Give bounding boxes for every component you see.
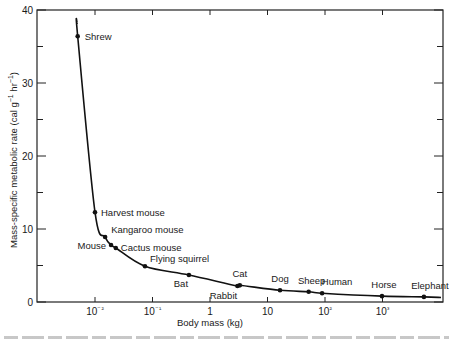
- x-tick-label: 1: [207, 306, 213, 317]
- figure-caption-cropped: [0, 334, 453, 343]
- y-tick-label: 30: [22, 78, 34, 89]
- data-point: [109, 243, 114, 248]
- x-tick-label: 10: [262, 306, 274, 317]
- x-tick-label: 10⁻²: [86, 305, 104, 317]
- y-tick-label: 0: [27, 297, 33, 308]
- point-label: Cactus mouse: [121, 242, 182, 253]
- x-axis-label: Body mass (kg): [177, 317, 243, 328]
- point-label: Kangaroo mouse: [111, 224, 183, 235]
- point-label: Horse: [371, 279, 396, 290]
- x-tick-label: 10³: [376, 305, 390, 317]
- point-label: Harvest mouse: [101, 207, 165, 218]
- data-point: [422, 295, 427, 300]
- x-tick-label: 10⁻¹: [144, 305, 162, 317]
- fitted-curve: [76, 18, 441, 297]
- point-label: Shrew: [85, 31, 112, 42]
- y-tick-label: 10: [22, 224, 34, 235]
- data-point: [380, 294, 385, 299]
- data-point: [306, 289, 311, 294]
- data-point: [238, 283, 243, 288]
- data-point: [143, 264, 148, 269]
- plot-frame: [37, 10, 443, 302]
- point-label: Mouse: [78, 240, 107, 251]
- point-label: Human: [322, 276, 353, 287]
- data-point: [93, 210, 98, 215]
- point-label: Flying squirrel: [150, 253, 209, 264]
- metabolic-rate-chart: 010203040 10⁻²10⁻¹11010²10³ ShrewHarvest…: [0, 0, 453, 343]
- plot-border: [37, 10, 443, 302]
- y-tick-label: 20: [22, 151, 34, 162]
- point-label: Elephant: [411, 280, 449, 291]
- y-axis-label: Mass-specific metabolic rate (cal g−1 hr…: [7, 72, 19, 248]
- point-label: Rabbit: [210, 290, 238, 301]
- point-label: Bat: [174, 278, 189, 289]
- data-point: [113, 246, 118, 251]
- data-point: [187, 273, 192, 278]
- point-label: Dog: [271, 273, 288, 284]
- data-point: [320, 291, 325, 296]
- data-points: ShrewHarvest mouseKangaroo mouseMouseCac…: [75, 31, 449, 301]
- y-tick-label: 40: [22, 5, 34, 16]
- point-label: Cat: [232, 268, 247, 279]
- y-axis-ticks: 010203040: [22, 5, 443, 308]
- data-point: [278, 288, 283, 293]
- x-tick-label: 10²: [318, 305, 332, 317]
- curve-line: [76, 18, 441, 297]
- data-point: [75, 34, 80, 39]
